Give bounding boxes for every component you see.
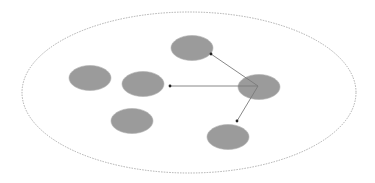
- node-far-left: [69, 66, 111, 91]
- arrowhead-icon: [210, 53, 213, 56]
- diagram-canvas: [0, 0, 375, 183]
- node-bottom-right: [207, 125, 249, 150]
- node-left: [122, 72, 164, 97]
- node-source: [238, 75, 280, 100]
- node-top: [171, 36, 213, 61]
- arrowhead-icon: [236, 120, 239, 123]
- node-bottom-left: [111, 109, 153, 134]
- diagram-svg: [0, 0, 375, 183]
- edge-node-source-to-node-top: [211, 54, 258, 86]
- arrowhead-icon: [169, 85, 172, 88]
- node-group: [69, 36, 280, 150]
